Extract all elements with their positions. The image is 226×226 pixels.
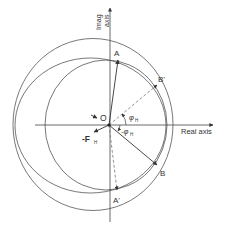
angle-label-minus-phi: -φ H [121,127,133,137]
imag-axis-label: Imag axis [95,14,110,30]
real-axis-label: Real axis [181,127,212,136]
svg-text:H: H [130,132,133,137]
point-label-a-prime: A' [113,196,120,205]
imag-axis-label-line1: Imag [95,14,103,30]
phi-arc-pos [122,114,126,125]
middle-circle [15,58,166,193]
imag-axis-label-line2: axis [103,14,110,27]
vector-ob [109,125,157,165]
origin-dot [107,123,110,126]
force-label: -F H [82,134,97,145]
circles [13,39,173,211]
svg-text:-φ: -φ [121,127,128,136]
axes [35,8,213,222]
svg-text:φ: φ [129,113,134,122]
outer-circle [13,39,173,211]
phi-arc-neg [118,125,120,131]
vector-minus-fh [94,125,109,132]
dashed-vectors [109,85,157,190]
point-label-b-prime: B' [158,75,165,84]
angle-label-phi: φ H [129,113,138,123]
point-label-o: O [100,113,107,123]
point-label-a: A [114,49,120,58]
point-label-b: B [160,169,165,178]
svg-text:H: H [135,118,138,123]
phasor-diagram: Imag axis Real axis O A B' B A' φ H -φ H… [0,0,226,226]
pointer-to-o [91,115,97,118]
svg-text:-F: -F [82,134,90,144]
svg-text:H: H [94,140,97,145]
